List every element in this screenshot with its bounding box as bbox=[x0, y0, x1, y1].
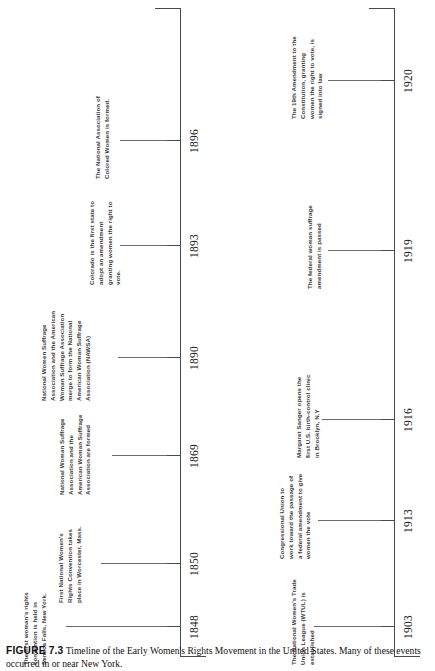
timeline-leader-1916 bbox=[322, 419, 381, 420]
timeline-note-1916: Margaret Sanger opens the first U.S. bir… bbox=[295, 372, 321, 458]
timeline-note-1850: First National Women's Rights Convention… bbox=[57, 517, 83, 603]
timeline-year-1920: 1920 bbox=[402, 69, 414, 93]
timeline-year-1848: 1848 bbox=[188, 615, 200, 639]
timeline-year-1903: 1903 bbox=[402, 615, 414, 639]
timeline-year-1919: 1919 bbox=[402, 239, 414, 263]
timeline-leader-1919 bbox=[328, 250, 381, 251]
figure-caption-text: Timeline of the Early Women's Rights Mov… bbox=[6, 645, 421, 668]
timeline-year-1916: 1916 bbox=[402, 408, 414, 432]
timeline-axis-lower bbox=[394, 8, 395, 657]
timeline-axis-end-cap-lower bbox=[369, 8, 395, 9]
timeline-note-1919: The federal woman suffrage amendment is … bbox=[306, 203, 324, 289]
timeline-note-1890: National Women Suffrage Association and … bbox=[40, 305, 93, 401]
timeline-leader-1903 bbox=[314, 626, 381, 627]
timeline-note-1893: Colorado is the first state to adopt an … bbox=[88, 199, 123, 285]
timeline-leader-1869 bbox=[112, 455, 167, 456]
figure-caption: FIGURE 7.3 Timeline of the Early Women's… bbox=[6, 644, 434, 670]
timeline-year-1869: 1869 bbox=[188, 444, 200, 468]
rotated-figure-container: The first woman's rights convention is h… bbox=[0, 0, 435, 671]
timeline-year-1913: 1913 bbox=[402, 509, 414, 533]
timeline-year-1850: 1850 bbox=[188, 552, 200, 576]
timeline-leader-1850 bbox=[101, 563, 167, 564]
timeline-track-upper: The first woman's rights convention is h… bbox=[0, 0, 218, 671]
timeline-leader-1890 bbox=[118, 357, 167, 358]
timeline-tick-1848 bbox=[167, 626, 180, 627]
timeline-tick-1896 bbox=[167, 140, 180, 141]
timeline-tick-1869 bbox=[167, 455, 180, 456]
timeline-tick-1903 bbox=[381, 626, 394, 627]
timeline-leader-1893 bbox=[120, 245, 167, 246]
timeline-year-1890: 1890 bbox=[188, 346, 200, 370]
timeline-leader-1848 bbox=[66, 626, 167, 627]
timeline-tick-1920 bbox=[381, 80, 394, 81]
timeline-tick-1850 bbox=[167, 563, 180, 564]
timeline-note-1913: Congressional Union to work toward the p… bbox=[278, 473, 313, 559]
timeline-tick-1890 bbox=[167, 357, 180, 358]
figure-number: FIGURE 7.3 bbox=[6, 645, 63, 656]
timeline-note-1896: The National Association of Colored Wome… bbox=[94, 93, 112, 179]
timeline-tick-1913 bbox=[381, 520, 394, 521]
timeline-tick-1893 bbox=[167, 245, 180, 246]
timeline-leader-1913 bbox=[318, 520, 381, 521]
timeline-year-1896: 1896 bbox=[188, 129, 200, 153]
figure-body: The first woman's rights convention is h… bbox=[0, 0, 435, 671]
timeline-axis-end-cap-upper bbox=[155, 8, 181, 9]
timeline-leader-1920 bbox=[328, 80, 381, 81]
timeline-tick-1916 bbox=[381, 419, 394, 420]
timeline-leader-1896 bbox=[120, 140, 167, 141]
timeline-axis-upper bbox=[180, 8, 181, 657]
timeline-track-lower: The National Women's Trade Union League … bbox=[218, 0, 408, 671]
timeline-note-1869: National Woman Suffrage Association and … bbox=[58, 409, 93, 495]
timeline-note-1920: The 19th Amendment to the Constitution, … bbox=[290, 33, 325, 119]
timeline-year-1893: 1893 bbox=[188, 234, 200, 258]
timeline-tick-1919 bbox=[381, 250, 394, 251]
